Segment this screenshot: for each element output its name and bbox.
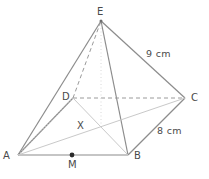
pyramid-diagram-svg <box>0 0 209 179</box>
measure-label-ce: 9 cm <box>146 49 171 59</box>
pyramid-figure: A B C D E X M 9 cm 8 cm <box>0 0 209 179</box>
edge-ae <box>18 21 101 155</box>
vertex-label-a: A <box>3 151 10 161</box>
edge-be <box>101 21 128 155</box>
point-label-m: M <box>68 160 77 170</box>
point-label-x: X <box>77 121 84 131</box>
vertex-label-e: E <box>97 7 103 17</box>
vertex-label-b: B <box>134 151 141 161</box>
vertex-label-d: D <box>62 92 70 102</box>
measure-label-bc: 8 cm <box>157 126 182 136</box>
vertex-dot-e <box>100 20 103 23</box>
point-dot-m <box>70 153 75 158</box>
vertex-label-c: C <box>191 93 198 103</box>
